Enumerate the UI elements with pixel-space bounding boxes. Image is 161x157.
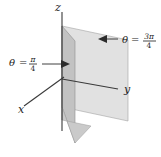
fraction-denominator-left: 4 xyxy=(31,64,36,73)
geometry-diagram: z y x θ = π 4 θ = 3π 4 xyxy=(0,0,161,157)
fraction-numerator-right: 3π xyxy=(144,32,155,41)
y-axis-label: y xyxy=(123,83,131,96)
equals-symbol-right: = xyxy=(131,34,139,45)
fraction-denominator-right: 4 xyxy=(147,41,152,50)
theta-symbol-right: θ xyxy=(122,34,128,45)
x-axis-label: x xyxy=(18,103,25,116)
theta-symbol-left: θ xyxy=(9,57,15,68)
figure-container: z y x θ = π 4 θ = 3π 4 xyxy=(0,0,161,157)
z-axis-label: z xyxy=(54,1,61,14)
equals-symbol-left: = xyxy=(19,57,27,68)
